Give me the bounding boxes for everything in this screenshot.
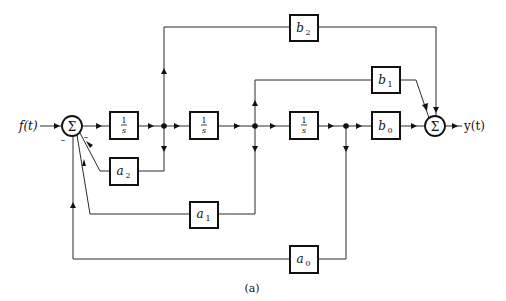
wires <box>40 27 462 259</box>
arrow-down-icon <box>433 107 439 113</box>
gain-block-a1: a 1 <box>190 202 218 228</box>
integrator-denominator: s <box>302 126 306 135</box>
arrow-right-icon <box>54 123 60 129</box>
arrow-right-icon <box>148 123 154 129</box>
gain-block-b2: b 2 <box>290 15 318 41</box>
arrow-down-icon <box>252 146 258 152</box>
input-label: f(t) <box>18 119 38 133</box>
gain-block-b1: b 1 <box>372 67 400 93</box>
arrow-up-icon <box>252 100 258 106</box>
arrow-down-icon <box>343 146 349 152</box>
arrow-right-icon <box>174 123 180 129</box>
minus-sign-a0: – <box>61 135 66 145</box>
gain-subscript: 1 <box>387 80 392 89</box>
arrow-right-icon <box>411 123 417 129</box>
summing-junction-output: Σ <box>425 116 445 136</box>
wire-b1-sum2 <box>400 80 429 118</box>
integrator-numerator: 1 <box>121 116 126 125</box>
gain-subscript: 0 <box>387 126 392 135</box>
wire-a0-sum1 <box>73 136 290 259</box>
integrator-block-1: 1 s <box>110 112 138 139</box>
output-label: y(t) <box>463 119 485 133</box>
wire-node3-a0 <box>318 126 346 259</box>
minus-sign-a2: – <box>84 132 89 142</box>
gain-base: b <box>378 119 386 133</box>
integrator-block-3: 1 s <box>290 112 318 139</box>
integrator-numerator: 1 <box>301 116 306 125</box>
arrow-right-icon <box>270 123 276 129</box>
summing-junction-input: Σ – – <box>61 116 89 145</box>
arrow-up-icon <box>161 68 167 74</box>
gain-base: a <box>296 252 303 266</box>
gain-subscript: 1 <box>205 214 210 223</box>
branch-node-1 <box>161 123 167 129</box>
gain-base: a <box>116 164 123 178</box>
integrator-denominator: s <box>202 126 206 135</box>
gain-base: b <box>296 21 304 35</box>
branch-node-3 <box>343 123 349 129</box>
arrow-right-icon <box>328 123 334 129</box>
arrow-up-icon <box>70 202 76 208</box>
gain-base: a <box>196 207 203 221</box>
gain-block-a2: a 2 <box>110 158 138 185</box>
arrow-right-icon <box>356 123 362 129</box>
gain-block-a0: a 0 <box>290 246 318 273</box>
arrow-diagonal-icon <box>422 103 428 111</box>
gain-subscript: 2 <box>125 171 130 180</box>
block-diagram: Σ – – Σ 1 s 1 s 1 s b 2 b 1 b 0 <box>0 0 506 301</box>
wire-node2-a1 <box>218 126 255 214</box>
gain-block-b0: b 0 <box>372 112 400 139</box>
figure-caption: (a) <box>244 282 259 295</box>
gain-subscript: 2 <box>305 28 310 37</box>
sigma-symbol: Σ <box>68 120 76 134</box>
arrow-down-icon <box>161 146 167 152</box>
sigma-symbol: Σ <box>431 120 439 134</box>
gain-subscript: 0 <box>305 259 310 268</box>
wire-node1-b2 <box>164 27 290 126</box>
integrator-numerator: 1 <box>201 116 206 125</box>
branch-node-2 <box>252 123 258 129</box>
wire-node1-a2 <box>138 126 164 171</box>
arrow-right-icon <box>234 123 240 129</box>
arrow-up-icon <box>82 159 86 166</box>
arrow-right-icon <box>96 123 102 129</box>
gain-base: b <box>378 73 386 87</box>
arrow-right-icon <box>452 123 458 129</box>
integrator-denominator: s <box>122 126 126 135</box>
integrator-block-2: 1 s <box>190 112 218 139</box>
